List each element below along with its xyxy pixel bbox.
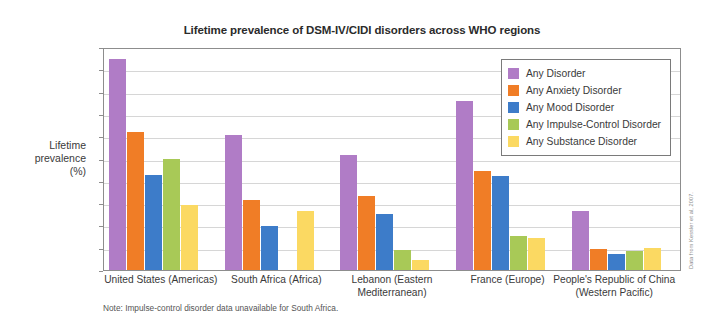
bar — [358, 196, 375, 270]
y-tick-mark — [99, 93, 103, 94]
y-tick-mark — [99, 137, 103, 138]
y-axis-title-line: Lifetime — [8, 139, 86, 152]
bar-group — [104, 49, 220, 270]
bar-group — [220, 49, 336, 270]
legend-label: Any Anxiety Disorder — [526, 85, 622, 96]
y-tick-mark — [99, 182, 103, 183]
bar — [510, 236, 527, 270]
x-axis-category-line: People's Republic of China — [541, 274, 687, 287]
bar — [412, 260, 429, 270]
chart-title: Lifetime prevalence of DSM-IV/CIDI disor… — [0, 24, 724, 36]
y-tick-mark — [99, 204, 103, 205]
y-tick-mark — [99, 271, 103, 272]
y-axis-title: Lifetimeprevalence(%) — [8, 139, 86, 178]
y-axis-title-line: prevalence — [8, 152, 86, 165]
bar — [608, 254, 625, 270]
source-credit: Data from Kessler et al, 2007. — [688, 192, 694, 269]
bar — [376, 214, 393, 270]
y-tick-mark — [99, 48, 103, 49]
legend-item[interactable]: Any Impulse-Control Disorder — [508, 116, 661, 133]
y-axis-title-line: (%) — [8, 165, 86, 178]
bar — [492, 176, 509, 270]
footnote: Note: Impulse-control disorder data unav… — [103, 303, 338, 313]
bar — [456, 101, 473, 270]
legend-label: Any Impulse-Control Disorder — [526, 119, 661, 130]
y-tick-mark — [99, 70, 103, 71]
legend-swatch-icon — [508, 85, 519, 96]
legend-label: Any Mood Disorder — [526, 102, 614, 113]
bar — [572, 211, 589, 270]
bar — [474, 171, 491, 270]
bar — [225, 135, 242, 270]
legend-item[interactable]: Any Mood Disorder — [508, 99, 661, 116]
legend-swatch-icon — [508, 68, 519, 79]
x-axis-category-line: (Western Pacific) — [541, 287, 687, 300]
y-tick-mark — [99, 226, 103, 227]
bar — [109, 59, 126, 270]
bar — [145, 175, 162, 270]
x-axis-category-label: People's Republic of China(Western Pacif… — [541, 274, 687, 299]
legend-swatch-icon — [508, 102, 519, 113]
x-axis-category-line: Mediterranean) — [322, 287, 462, 300]
bar — [297, 211, 314, 270]
bar — [626, 251, 643, 270]
legend-item[interactable]: Any Substance Disorder — [508, 133, 661, 150]
bar — [590, 249, 607, 270]
bar — [394, 250, 411, 270]
bar — [127, 132, 144, 270]
bar — [528, 238, 545, 270]
bar — [644, 248, 661, 270]
legend-swatch-icon — [508, 136, 519, 147]
chart-figure: Lifetime prevalence of DSM-IV/CIDI disor… — [0, 0, 724, 330]
bar-group — [335, 49, 451, 270]
y-tick-mark — [99, 160, 103, 161]
y-tick-mark — [99, 249, 103, 250]
legend-label: Any Substance Disorder — [526, 136, 637, 147]
bar — [181, 205, 198, 270]
y-tick-mark — [99, 115, 103, 116]
bar — [340, 155, 357, 270]
legend-swatch-icon — [508, 119, 519, 130]
bar — [261, 226, 278, 270]
legend-item[interactable]: Any Disorder — [508, 65, 661, 82]
legend-label: Any Disorder — [526, 68, 586, 79]
chart-legend: Any DisorderAny Anxiety DisorderAny Mood… — [501, 59, 671, 156]
bar — [243, 200, 260, 270]
legend-item[interactable]: Any Anxiety Disorder — [508, 82, 661, 99]
bar — [163, 159, 180, 271]
